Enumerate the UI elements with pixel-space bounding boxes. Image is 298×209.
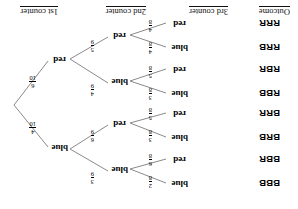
prob-3rd-1: 4 8: [149, 19, 152, 33]
prob-3rd-4: 3 8: [149, 87, 152, 101]
node-2nd-blue-2: blue: [111, 165, 128, 175]
prob-3rd-8: 2 8: [149, 175, 152, 189]
prob-3rd-7-numerator: 6: [149, 160, 152, 167]
outcome-2: RRB: [259, 42, 280, 53]
prob-2nd-blue-1-denominator: 9: [91, 83, 94, 91]
probability-tree-diagram: 1st counter 2nd counter 3rd counter Outc…: [0, 0, 298, 209]
prob-3rd-3-denominator: 8: [149, 65, 152, 73]
node-3rd-6: blue: [171, 133, 188, 143]
prob-2nd-red-1-denominator: 9: [91, 39, 94, 47]
prob-3rd-8-numerator: 2: [149, 182, 152, 189]
prob-2nd-blue-2-numerator: 3: [91, 178, 94, 185]
prob-2nd-red-2: 6 9: [91, 129, 94, 143]
prob-3rd-2-numerator: 4: [149, 48, 152, 55]
prob-1st-blue-denominator: 10: [30, 121, 37, 129]
prob-3rd-6-numerator: 3: [149, 136, 152, 143]
prob-3rd-4-denominator: 8: [149, 87, 152, 95]
node-3rd-3: red: [173, 65, 186, 75]
prob-2nd-red-1: 5 9: [91, 39, 94, 53]
prob-3rd-2-denominator: 8: [149, 41, 152, 49]
prob-1st-blue: 4 10: [30, 121, 37, 135]
prob-3rd-1-numerator: 4: [149, 26, 152, 33]
prob-1st-red: 6 10: [30, 75, 37, 89]
header-1st-counter: 1st counter: [20, 6, 58, 17]
prob-2nd-blue-2: 3 9: [91, 171, 94, 185]
header-outcome: Outcome: [259, 6, 290, 17]
prob-2nd-blue-2-denominator: 9: [91, 171, 94, 179]
prob-1st-blue-numerator: 4: [30, 128, 37, 135]
rotated-figure-wrapper: 1st counter 2nd counter 3rd counter Outc…: [0, 0, 298, 209]
prob-3rd-1-denominator: 8: [149, 19, 152, 27]
prob-3rd-5-denominator: 8: [149, 107, 152, 115]
prob-3rd-6-denominator: 8: [149, 129, 152, 137]
node-2nd-blue-1: blue: [111, 77, 128, 87]
outcome-8: BBB: [259, 178, 280, 189]
outcome-6: BRB: [259, 132, 280, 143]
prob-3rd-7-denominator: 8: [149, 153, 152, 161]
node-3rd-2: blue: [171, 43, 188, 53]
node-2nd-red-2: red: [113, 119, 126, 129]
prob-3rd-3-numerator: 5: [149, 72, 152, 79]
outcome-7: BBR: [259, 154, 280, 165]
prob-3rd-7: 6 8: [149, 153, 152, 167]
prob-2nd-red-2-denominator: 9: [91, 129, 94, 137]
node-1st-blue: blue: [51, 143, 68, 153]
outcome-3: RBR: [259, 64, 280, 75]
node-3rd-7: red: [173, 155, 186, 165]
node-3rd-5: red: [173, 109, 186, 119]
header-3rd-counter: 3rd counter: [189, 6, 228, 17]
prob-2nd-blue-1-numerator: 4: [91, 90, 94, 97]
prob-3rd-4-numerator: 3: [149, 94, 152, 101]
outcome-5: BRR: [259, 108, 280, 119]
node-3rd-4: blue: [171, 89, 188, 99]
prob-3rd-6: 3 8: [149, 129, 152, 143]
node-3rd-8: blue: [171, 179, 188, 189]
outcome-4: RBB: [259, 88, 280, 99]
prob-2nd-red-2-numerator: 6: [91, 136, 94, 143]
node-2nd-red-1: red: [113, 31, 126, 41]
prob-1st-red-numerator: 6: [30, 82, 37, 89]
outcome-1: RRR: [259, 18, 280, 29]
prob-3rd-3: 5 8: [149, 65, 152, 79]
node-3rd-1: red: [173, 19, 186, 29]
prob-1st-red-denominator: 10: [30, 75, 37, 83]
prob-3rd-5: 5 8: [149, 107, 152, 121]
prob-3rd-5-numerator: 5: [149, 114, 152, 121]
prob-2nd-red-1-numerator: 5: [91, 46, 94, 53]
prob-2nd-blue-1: 4 9: [91, 83, 94, 97]
node-1st-red: red: [53, 55, 66, 65]
prob-3rd-8-denominator: 8: [149, 175, 152, 183]
header-2nd-counter: 2nd counter: [106, 6, 146, 17]
prob-3rd-2: 4 8: [149, 41, 152, 55]
